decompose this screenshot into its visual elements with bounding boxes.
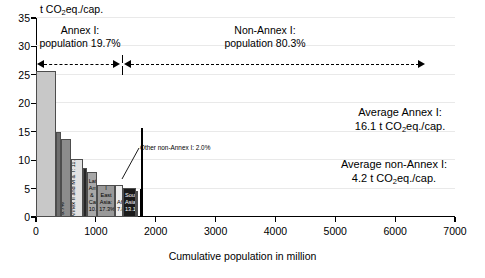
bar-africa[interactable]: Africa: 7.8%: [115, 185, 123, 217]
x-axis-tick-mark: [215, 217, 216, 222]
average-nonannex-line2: 4.2 t CO2eq./cap.: [318, 171, 470, 185]
bar-other-non-annex-i[interactable]: [136, 191, 138, 217]
x-axis-tick-label: 0: [11, 225, 61, 237]
average-nonannex-annotation: Average non-Annex I: 4.2 t CO2eq./cap.: [318, 157, 470, 186]
bar-latin-america-caribbean[interactable]: Latin America & Caribbean: 10.3%: [87, 172, 98, 217]
bar-label: Non-Annex I East Asia: 17.3%: [99, 185, 113, 213]
annex-population-header: Annex I: population 19.7%: [38, 24, 122, 50]
nonannex-arrow-left-head: [124, 60, 131, 68]
bar-label: JANZ: 5.2%: [56, 174, 59, 217]
nonannex-arrow-line: [131, 64, 419, 65]
nonannex-header-line1: Non-Annex I:: [140, 24, 390, 37]
x-axis-title: Cumulative population in million: [0, 250, 485, 262]
average-annex-value-sub: 2: [402, 125, 406, 134]
x-axis-tick-label: 5000: [310, 225, 360, 237]
x-axis-tick-mark: [35, 217, 36, 222]
average-annex-annotation: Average Annex I: 16.1 t CO2eq./cap.: [330, 105, 470, 134]
nonannex-header-line2: population 80.3%: [140, 37, 390, 50]
x-axis-tick-mark: [454, 217, 455, 222]
x-axis-tick-mark: [155, 217, 156, 222]
bar-label: Latin America & Caribbean: 10.3%: [89, 178, 96, 213]
bar-label: Europe Annex II and M & T: 11.4%: [71, 187, 77, 217]
annex-header-line2: population 19.7%: [38, 37, 122, 50]
annex-nonannex-divider-bottom: [122, 66, 123, 75]
chart-figure: t CO2eq./cap. 05101520253035 01000200030…: [0, 0, 485, 278]
bar-label: South Asia: 13.1%: [125, 192, 134, 213]
average-nonannex-value-sub: 2: [393, 177, 397, 186]
x-axis-tick-label: 6000: [370, 225, 420, 237]
bar-eit-annex-i[interactable]: EIT Annex I: 9.7%: [61, 139, 71, 217]
bar-label: Middle East: 3.8%: [83, 191, 85, 217]
nonannex-population-header: Non-Annex I: population 80.3%: [140, 24, 390, 50]
annex-nonannex-divider-top: [122, 55, 123, 63]
x-axis-tick-label: 4000: [250, 225, 300, 237]
x-axis-tick-label: 2000: [131, 225, 181, 237]
average-nonannex-value-pre: 4.2 t CO: [352, 172, 393, 184]
bar-label: Africa: 7.8%: [117, 199, 121, 213]
x-axis-tick-label: 7000: [430, 225, 480, 237]
x-axis-tick-mark: [395, 217, 396, 222]
bar-non-annex-i-east-asia[interactable]: Non-Annex I East Asia: 17.3%: [97, 185, 115, 217]
bar-europe-annex-ii-and-m-t[interactable]: Europe Annex II and M & T: 11.4%: [71, 159, 83, 217]
annex-arrow-line: [44, 64, 114, 65]
bar-usa-canada[interactable]: USA & Canada: 19.4%: [36, 71, 56, 217]
x-axis-tick-label: 1000: [71, 225, 121, 237]
x-axis-tick-mark: [275, 217, 276, 222]
x-axis-tick-mark: [335, 217, 336, 222]
average-annex-line1: Average Annex I:: [330, 105, 470, 119]
annex-arrow-left-head: [37, 60, 44, 68]
average-nonannex-value-post: eq./cap.: [397, 172, 436, 184]
bar-label: EIT Annex I: 9.7%: [61, 177, 66, 217]
bar-south-asia[interactable]: South Asia: 13.1%: [123, 188, 136, 217]
annex-header-line1: Annex I:: [38, 24, 122, 37]
x-axis-tick-mark: [95, 217, 96, 222]
x-axis-tick-label: 3000: [191, 225, 241, 237]
nonannex-arrow-right-head: [418, 60, 425, 68]
callout-label: Other non-Annex I: 2.0%: [140, 144, 210, 151]
average-annex-value-post: eq./cap.: [406, 120, 445, 132]
bar-label: USA & Canada: 19.4%: [39, 143, 46, 217]
average-nonannex-line1: Average non-Annex I:: [318, 157, 470, 171]
annex-arrow-right-head: [113, 60, 120, 68]
average-annex-line2: 16.1 t CO2eq./cap.: [330, 119, 470, 133]
average-annex-value-pre: 16.1 t CO: [355, 120, 402, 132]
